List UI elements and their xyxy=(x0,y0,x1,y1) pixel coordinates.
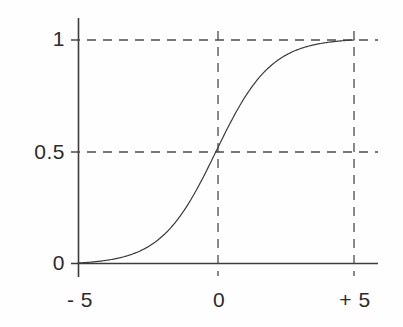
x-tick-label-0: 0 xyxy=(188,289,250,310)
y-tick-label-0: 0 xyxy=(10,252,65,273)
x-tick-label-plus-5: + 5 xyxy=(322,289,388,310)
chart-figure: 1 0.5 0 - 5 0 + 5 xyxy=(0,0,403,327)
y-tick-label-05: 0.5 xyxy=(10,141,65,162)
x-tick-label-minus-5: - 5 xyxy=(48,289,112,310)
y-tick-label-1: 1 xyxy=(10,28,65,49)
